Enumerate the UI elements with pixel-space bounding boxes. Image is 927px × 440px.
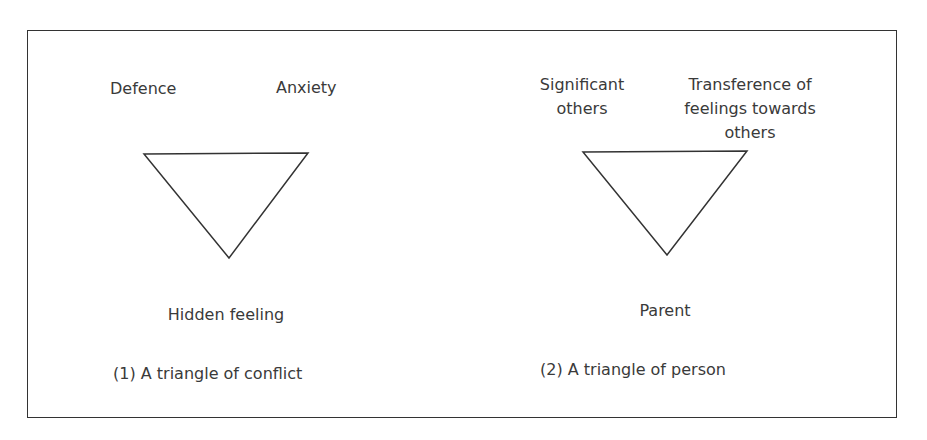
label-transference-line2: feelings towards — [684, 97, 816, 121]
label-significant-line2: others — [540, 97, 624, 121]
person-triangle — [583, 151, 747, 255]
label-anxiety: Anxiety — [276, 76, 337, 100]
conflict-triangle — [144, 153, 308, 258]
label-defence: Defence — [110, 77, 176, 101]
label-transference-line3: others — [684, 121, 816, 145]
label-parent: Parent — [639, 299, 690, 323]
caption-triangle-of-conflict: (1) A triangle of conflict — [113, 362, 302, 386]
caption-triangle-of-person: (2) A triangle of person — [540, 358, 726, 382]
label-significant-line1: Significant — [540, 73, 624, 97]
label-transference-line1: Transference of — [684, 73, 816, 97]
label-transference: Transference of feelings towards others — [684, 73, 816, 145]
label-hidden-feeling: Hidden feeling — [168, 303, 284, 327]
label-significant-others: Significant others — [540, 73, 624, 121]
